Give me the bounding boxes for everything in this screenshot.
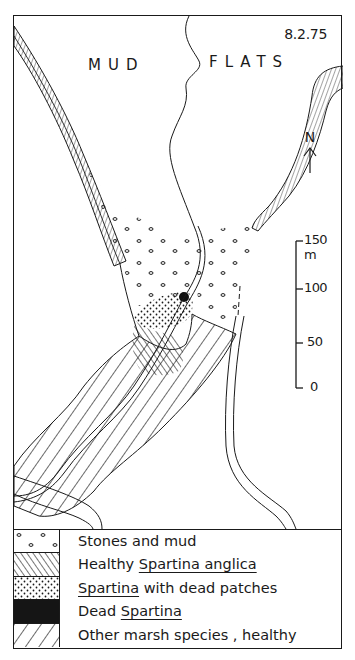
legend-text-species: Spartina anglica <box>139 556 257 572</box>
legend-item-stones: Stones and mud <box>14 530 341 553</box>
legend-item-other-marsh: Other marsh species , healthy <box>14 624 341 647</box>
legend-text-plain: Dead <box>78 603 121 619</box>
north-label: N <box>300 129 320 145</box>
scale-label-50: 50 <box>307 334 322 349</box>
legend-item-healthy-spartina: Healthy Spartina anglica <box>14 553 341 576</box>
legend: Stones and mud Healthy Spartina anglica … <box>14 529 341 648</box>
scale-label-100: 100 <box>304 280 327 295</box>
legend-text: Other marsh species , healthy <box>78 627 297 643</box>
flats-label: FLATS <box>209 53 289 71</box>
survey-date: 8.2.75 <box>284 26 327 42</box>
map-area: 8.2.75 MUD FLATS N 150 m 100 50 0 <box>14 16 341 529</box>
stones-swatch <box>14 530 60 553</box>
legend-item-dead-spartina: Dead Spartina <box>14 600 341 623</box>
legend-text-species: Spartina <box>121 603 182 619</box>
dead-patches-swatch <box>14 577 60 600</box>
legend-text: Stones and mud <box>78 533 196 549</box>
other-marsh-swatch <box>14 624 60 647</box>
scale-label-150: 150 m <box>304 232 341 262</box>
legend-text-species: Spartina <box>78 580 139 596</box>
scale-bar <box>296 241 303 388</box>
other-marsh-region <box>14 314 236 516</box>
mud-label: MUD <box>88 56 144 74</box>
legend-item-dead-patches: Spartina with dead patches <box>14 577 341 600</box>
map-frame: 8.2.75 MUD FLATS N 150 m 100 50 0 Stones… <box>13 15 342 649</box>
legend-text-plain: Healthy <box>78 556 139 572</box>
salt-marsh-map <box>14 16 343 529</box>
right-channel <box>225 286 296 529</box>
dead-spartina-swatch <box>14 600 60 623</box>
healthy-spartina-swatch <box>14 553 60 576</box>
legend-text-plain: with dead patches <box>139 580 277 596</box>
scale-label-0: 0 <box>310 379 318 394</box>
right-cliff <box>252 66 343 231</box>
